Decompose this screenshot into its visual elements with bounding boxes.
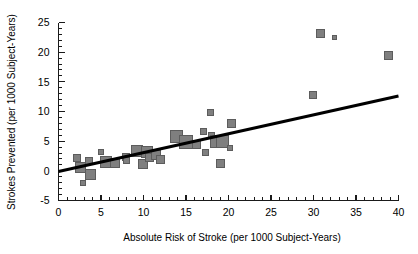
x-axis-title: Absolute Risk of Stroke (per 1000 Subjec… bbox=[123, 232, 341, 243]
x-tick-label: 35 bbox=[350, 206, 362, 218]
data-point-marker bbox=[99, 150, 104, 155]
data-point-marker bbox=[81, 180, 86, 185]
y-tick-label: 15 bbox=[38, 76, 50, 88]
data-point-marker bbox=[74, 155, 81, 162]
data-point-marker bbox=[86, 169, 96, 179]
data-point-marker bbox=[228, 146, 233, 151]
y-tick-labels: -50510152025 bbox=[38, 16, 50, 206]
x-tick-label: 40 bbox=[393, 206, 405, 218]
regression-line bbox=[59, 96, 399, 171]
data-point-marker bbox=[309, 91, 316, 98]
chart-canvas: 0510152025303540 -50510152025 Absolute R… bbox=[0, 0, 418, 254]
x-tick-label: 0 bbox=[56, 206, 62, 218]
x-tick-label: 15 bbox=[180, 206, 192, 218]
y-tick-label: 25 bbox=[38, 16, 50, 28]
data-point-marker bbox=[124, 158, 130, 164]
axis-ticks bbox=[59, 23, 399, 201]
x-tick-label: 30 bbox=[308, 206, 320, 218]
data-point-marker bbox=[384, 52, 392, 60]
fit-line bbox=[59, 96, 399, 171]
data-point-marker bbox=[333, 35, 337, 39]
axes bbox=[59, 23, 399, 201]
data-point-marker bbox=[200, 129, 206, 135]
data-point-marker bbox=[316, 29, 324, 37]
data-point-marker bbox=[203, 149, 209, 155]
y-tick-label: 10 bbox=[38, 105, 50, 117]
data-point-marker bbox=[157, 156, 165, 164]
x-tick-label: 10 bbox=[138, 206, 150, 218]
y-tick-label: 0 bbox=[44, 165, 50, 177]
data-point-marker bbox=[227, 119, 235, 127]
x-tick-label: 5 bbox=[98, 206, 104, 218]
data-point-marker bbox=[208, 110, 214, 116]
scatter-chart: 0510152025303540 -50510152025 Absolute R… bbox=[0, 0, 418, 254]
x-tick-labels: 0510152025303540 bbox=[56, 206, 405, 218]
y-tick-label: 5 bbox=[44, 135, 50, 147]
y-tick-label: 20 bbox=[38, 46, 50, 58]
y-tick-label: -5 bbox=[40, 194, 49, 206]
x-tick-label: 20 bbox=[223, 206, 235, 218]
data-point-marker bbox=[217, 160, 225, 168]
y-axis-title: Strokes Prevented (per 1000 Subject-Year… bbox=[6, 14, 17, 210]
x-tick-label: 25 bbox=[265, 206, 277, 218]
